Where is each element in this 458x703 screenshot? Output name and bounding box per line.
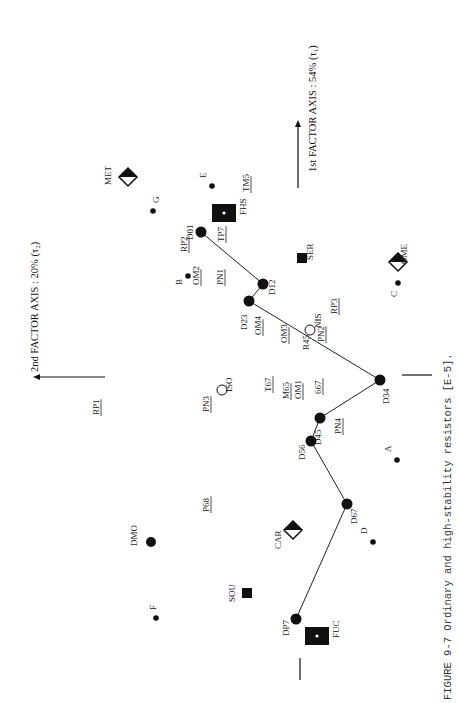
marker-e: E bbox=[198, 172, 215, 189]
label-m65: M65 bbox=[281, 381, 291, 399]
node-d01 bbox=[196, 227, 207, 238]
marker-ome-label: OME bbox=[399, 243, 409, 264]
node-label-d56: D56 bbox=[297, 444, 307, 460]
trajectory-line bbox=[201, 232, 380, 619]
marker-iso-label: ISO bbox=[224, 377, 234, 392]
label-pn1: PN1 bbox=[215, 269, 225, 285]
marker-sou: SOU bbox=[227, 583, 252, 602]
node-label-d34: D34 bbox=[381, 388, 391, 404]
node-label-d23: D23 bbox=[239, 314, 249, 330]
marker-a-label: A bbox=[383, 445, 393, 452]
label-pn4: PN4 bbox=[333, 417, 343, 434]
label-tm5: TM5 bbox=[241, 174, 251, 193]
marker-ser: SER bbox=[297, 243, 315, 263]
node-d23 bbox=[244, 296, 255, 307]
node-d67 bbox=[342, 499, 353, 510]
axis-1-arrow bbox=[295, 120, 301, 188]
marker-f: F bbox=[148, 605, 159, 621]
marker-c: C bbox=[389, 280, 401, 297]
marker-e-label: E bbox=[198, 172, 208, 178]
marker-b-label: B bbox=[174, 279, 184, 285]
marker-met-label: MET bbox=[103, 166, 113, 186]
marker-iso: ISO bbox=[217, 377, 234, 395]
axis-1-label: 1st FACTOR AXIS : 54% (τ₁) bbox=[307, 45, 319, 172]
marker-fhs: FHS bbox=[212, 198, 248, 222]
node-d45 bbox=[315, 413, 326, 424]
marker-a: A bbox=[383, 445, 400, 463]
label-om3: OM3 bbox=[279, 323, 289, 343]
marker-car: CAR bbox=[273, 521, 302, 549]
factor-analysis-diagram: 2nd FACTOR AXIS : 20% (τ₂) 1st FACTOR AX… bbox=[0, 0, 458, 703]
labels: TM5TP7RP2OM2PN1OM4OM3PN2RP3T67M65OM1667P… bbox=[91, 174, 343, 514]
node-label-dp7: DP7 bbox=[281, 619, 291, 636]
axis-2-label: 2nd FACTOR AXIS : 20% (τ₂) bbox=[29, 241, 41, 372]
marker-fuc: FUC bbox=[305, 620, 341, 645]
marker-d: D bbox=[359, 527, 376, 545]
markers: METOMECARFHSFUCSERSOUNISISODMOABCDEFG bbox=[103, 166, 409, 646]
label-rp2: RP2 bbox=[179, 236, 189, 252]
axis-2-arrow bbox=[33, 374, 105, 380]
node-label-d67: D67 bbox=[349, 508, 359, 524]
marker-ome: OME bbox=[389, 243, 409, 271]
node-label-d12: D12 bbox=[267, 280, 277, 296]
marker-fuc-label: FUC bbox=[331, 620, 341, 638]
marker-dmo-label: DMO bbox=[129, 524, 139, 546]
marker-dmo: DMO bbox=[129, 524, 156, 547]
marker-nis-label: NIS bbox=[313, 313, 323, 328]
label-rp3: RP3 bbox=[329, 298, 339, 314]
node-d34 bbox=[375, 375, 386, 386]
figure-caption: FIGURE 9-7 Ordinary and high-stability r… bbox=[442, 353, 454, 700]
marker-d-label: D bbox=[359, 527, 369, 534]
marker-sou-label: SOU bbox=[227, 583, 237, 602]
marker-g-label: G bbox=[151, 196, 161, 203]
label-t67: T67 bbox=[263, 377, 273, 392]
label-rp1: RP1 bbox=[91, 399, 101, 415]
node-dp7 bbox=[291, 614, 302, 625]
node-d56 bbox=[306, 436, 317, 447]
marker-met: MET bbox=[103, 166, 137, 187]
marker-b: B bbox=[174, 273, 191, 285]
label-om1: OM1 bbox=[293, 380, 303, 399]
trajectory-path: D01D12D23D34D45D56D67DP7 bbox=[185, 225, 391, 637]
label-p68: P68 bbox=[201, 497, 211, 512]
label-pn3: PN3 bbox=[201, 395, 211, 412]
label-r45: R45 bbox=[301, 334, 311, 350]
marker-c-label: C bbox=[389, 291, 399, 297]
marker-car-label: CAR bbox=[273, 530, 283, 549]
label-om4: OM4 bbox=[253, 315, 263, 335]
label-667: 667 bbox=[313, 380, 323, 394]
marker-ser-label: SER bbox=[305, 243, 315, 260]
label-om2: OM2 bbox=[191, 266, 201, 285]
label-pn2: PN2 bbox=[316, 326, 326, 342]
marker-f-label: F bbox=[148, 605, 158, 610]
label-tp7: TP7 bbox=[216, 226, 226, 242]
marker-fhs-label: FHS bbox=[238, 198, 248, 215]
marker-g: G bbox=[150, 196, 161, 214]
